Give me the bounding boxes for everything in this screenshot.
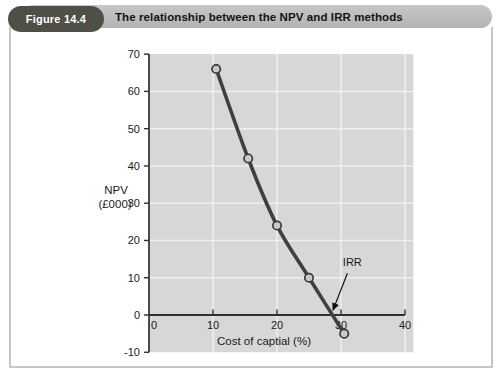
y-tick-label: 0 xyxy=(134,309,140,321)
npv-irr-chart: 706050403020100-10010203040IRRNPV(£000)C… xyxy=(0,0,501,375)
figure-page: The relationship between the NPV and IRR… xyxy=(0,0,501,375)
y-axis-title-line2: (£000) xyxy=(98,198,131,210)
y-tick-label: 70 xyxy=(128,48,140,60)
y-tick-label: 40 xyxy=(128,160,140,172)
y-tick-label: 20 xyxy=(128,234,140,246)
x-tick-label: 0 xyxy=(151,319,157,331)
y-tick-label: 10 xyxy=(128,272,140,284)
data-point-marker xyxy=(340,329,348,337)
y-tick-label: 50 xyxy=(128,123,140,135)
y-axis-title-line1: NPV xyxy=(104,184,128,196)
data-point-marker xyxy=(244,154,252,162)
x-tick-label: 10 xyxy=(207,319,219,331)
irr-label: IRR xyxy=(343,256,362,268)
data-point-marker xyxy=(212,65,220,73)
y-tick-label: -10 xyxy=(124,346,140,358)
x-tick-label: 20 xyxy=(271,319,283,331)
x-axis-title: Cost of captial (%) xyxy=(217,335,311,347)
y-tick-label: 60 xyxy=(128,85,140,97)
x-tick-label: 40 xyxy=(399,319,411,331)
data-point-marker xyxy=(305,274,313,282)
data-point-marker xyxy=(273,221,281,229)
